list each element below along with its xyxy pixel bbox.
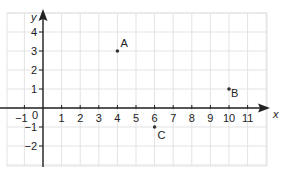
y-tick-label: 3 <box>31 45 37 57</box>
coordinate-plane: xy−112345678910110−2−11234 ABC <box>0 0 281 173</box>
y-tick-label: −1 <box>24 121 37 133</box>
x-tick-label: 9 <box>207 112 213 124</box>
x-tick-label: 3 <box>96 112 102 124</box>
x-tick-label: 6 <box>152 112 158 124</box>
x-tick-label: 1 <box>59 112 65 124</box>
y-tick-label: 4 <box>31 26 37 38</box>
y-tick-label: 1 <box>31 83 37 95</box>
y-tick-label: −2 <box>24 140 37 152</box>
x-tick-label: 2 <box>77 112 83 124</box>
x-tick-label: 5 <box>133 112 139 124</box>
point-label-b: B <box>231 87 238 99</box>
x-tick-label: 11 <box>242 112 253 124</box>
point-label-c: C <box>158 129 166 141</box>
x-axis-label: x <box>272 108 279 120</box>
x-tick-label: 10 <box>223 112 235 124</box>
point-c <box>153 125 157 129</box>
point-label-a: A <box>120 37 128 49</box>
y-tick-label: 2 <box>31 64 37 76</box>
point-a <box>116 49 120 53</box>
x-tick-label: 8 <box>189 112 195 124</box>
origin-label: 0 <box>32 109 38 121</box>
x-tick-label: 4 <box>114 112 120 124</box>
x-tick-label: 7 <box>170 112 176 124</box>
